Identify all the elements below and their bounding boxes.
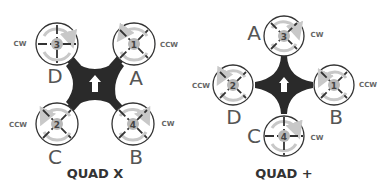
motor-1: 1 (113, 23, 155, 65)
position-label: D (47, 64, 62, 88)
motor-number: 4 (130, 120, 136, 130)
position-label: B (129, 145, 143, 169)
motor-number: 2 (54, 120, 60, 130)
motor-3: 3 (36, 23, 78, 65)
position-label: A (247, 21, 261, 45)
diagram-title: QUAD X (67, 166, 124, 181)
motor-number: 1 (131, 40, 137, 50)
quad-plus-frame (255, 56, 313, 114)
rotation-label: CCW (359, 81, 377, 89)
quad-plus-diagram: 3 CW A 2 CCW D 1 CCW B (192, 16, 377, 181)
rotation-label: CW (162, 120, 175, 128)
motor-number: 1 (331, 81, 337, 91)
rotation-label: CCW (9, 121, 27, 129)
position-label: C (247, 124, 261, 148)
motor-2: 2 (213, 65, 253, 105)
motor-4: 4 (112, 103, 154, 145)
rotation-label: CW (311, 134, 324, 142)
position-label: D (226, 105, 241, 129)
motor-3: 3 (264, 16, 304, 56)
motor-4: 4 (264, 116, 304, 156)
rotation-label: CW (14, 40, 27, 48)
rotation-label: CCW (160, 41, 178, 49)
motor-number: 4 (281, 132, 287, 142)
motor-number: 2 (230, 81, 236, 91)
position-label: A (129, 66, 143, 90)
rotation-label: CCW (192, 82, 210, 90)
motor-number: 3 (54, 40, 60, 50)
motor-1: 1 (314, 65, 354, 105)
position-label: C (48, 145, 62, 169)
diagram-title: QUAD + (255, 166, 312, 181)
rotation-label: CW (311, 31, 324, 39)
motor-number: 3 (281, 32, 287, 42)
quad-x-frame (66, 59, 124, 109)
position-label: B (329, 105, 343, 129)
motor-2: 2 (36, 103, 78, 145)
quad-configuration-diagram: 3 CW D 1 CCW A 2 CCW C (0, 0, 387, 193)
quad-x-diagram: 3 CW D 1 CCW A 2 CCW C (9, 23, 178, 181)
